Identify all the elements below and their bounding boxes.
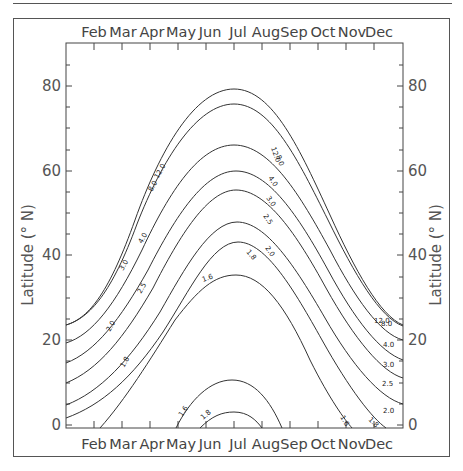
top-month-jul: Jul xyxy=(228,24,247,40)
top-month-jun: Jun xyxy=(198,24,222,40)
clabel-edge-3-0: 3.0 xyxy=(383,361,394,369)
contour-8-0 xyxy=(66,104,403,326)
left-y-label-40: 40 xyxy=(42,246,61,264)
left-y-label-80: 80 xyxy=(42,77,61,95)
plot-area xyxy=(66,43,403,428)
clabel-right-4-0: 4.0 xyxy=(266,175,279,189)
bottom-month-jun: Jun xyxy=(198,436,222,452)
right-y-ticks xyxy=(397,65,403,425)
contour-lines xyxy=(66,89,403,428)
top-month-mar: Mar xyxy=(109,24,136,40)
top-month-labels: Feb Mar Apr May Jun Jul Aug Sep Oct Nov … xyxy=(81,24,393,40)
bottom-month-mar: Mar xyxy=(109,436,136,452)
top-month-feb: Feb xyxy=(81,24,107,40)
top-month-oct: Oct xyxy=(310,24,335,40)
left-y-label-60: 60 xyxy=(42,162,61,180)
top-month-nov: Nov xyxy=(338,24,367,40)
clabel-edge-2-0: 2.0 xyxy=(383,407,394,415)
clabel-right-1-8: 1.8 xyxy=(244,248,257,262)
top-month-sep: Sep xyxy=(280,24,307,40)
top-month-aug: Aug xyxy=(252,24,280,40)
bottom-month-jul: Jul xyxy=(228,436,247,452)
bottom-month-feb: Feb xyxy=(81,436,107,452)
contour-1-6 xyxy=(100,275,352,428)
bottom-month-nov: Nov xyxy=(338,436,367,452)
contour-4-0 xyxy=(66,145,403,343)
contour-labels-right-edge: 12.0 8.0 4.0 3.0 2.5 2.0 1.6 1.8 xyxy=(338,317,394,429)
right-y-label-60: 60 xyxy=(408,162,427,180)
bottom-month-may: May xyxy=(166,436,196,452)
right-y-label-80: 80 xyxy=(408,77,427,95)
top-month-dec: Dec xyxy=(365,24,393,40)
clabel-left-1-8: 1.8 xyxy=(119,355,131,369)
right-y-labels: 0 20 40 60 80 xyxy=(408,77,427,434)
clabel-left-4-0: 4.0 xyxy=(137,231,149,245)
clabel-left-2-5: 2.5 xyxy=(136,281,148,295)
left-y-label-20: 20 xyxy=(42,331,61,349)
clabel-right-2-5: 2.5 xyxy=(261,213,274,227)
bottom-month-labels: Feb Mar Apr May Jun Jul Aug Sep Oct Nov … xyxy=(81,436,393,452)
clabel-right-8-0: 8.0 xyxy=(274,154,285,167)
bottom-month-apr: Apr xyxy=(139,436,164,452)
contour-2-5 xyxy=(66,190,403,383)
left-y-labels: 0 20 40 60 80 xyxy=(42,77,61,434)
clabel-left-12-0: 12.0 xyxy=(153,162,168,180)
clabel-edge-2-5: 2.5 xyxy=(382,380,393,388)
top-month-apr: Apr xyxy=(139,24,164,40)
bottom-month-aug: Aug xyxy=(252,436,280,452)
bottom-month-oct: Oct xyxy=(310,436,335,452)
clabel-edge-1-6: 1.6 xyxy=(338,414,351,428)
right-y-label-40: 40 xyxy=(408,246,427,264)
right-y-axis-title: Latitude (° N) xyxy=(427,204,445,306)
bottom-month-dec: Dec xyxy=(365,436,393,452)
left-y-label-0: 0 xyxy=(51,416,61,434)
clabel-edge-4-0: 4.0 xyxy=(383,341,394,349)
bottom-month-sep: Sep xyxy=(280,436,307,452)
right-y-label-0: 0 xyxy=(408,416,418,434)
clabel-edge-8-0: 8.0 xyxy=(381,320,392,328)
left-y-axis-title: Latitude (° N) xyxy=(19,204,37,306)
top-month-ticks xyxy=(94,43,374,50)
top-month-may: May xyxy=(166,24,196,40)
contour-inner-1-6 xyxy=(176,380,282,428)
right-y-label-20: 20 xyxy=(408,331,427,349)
clabel-left-3-0: 3.0 xyxy=(118,258,130,272)
clabel-right-3-0: 3.0 xyxy=(264,195,277,209)
bottom-month-ticks xyxy=(94,421,374,428)
contour-chart: Feb Mar Apr May Jun Jul Aug Sep Oct Nov … xyxy=(0,0,463,471)
clabel-edge-1-8: 1.8 xyxy=(367,416,381,430)
left-y-ticks xyxy=(66,65,72,425)
clabel-left-1-6: 1.6 xyxy=(177,404,190,418)
clabel-left-8-0: 8.0 xyxy=(147,179,159,193)
contour-2-0 xyxy=(66,222,403,405)
contour-1-8 xyxy=(66,242,386,428)
